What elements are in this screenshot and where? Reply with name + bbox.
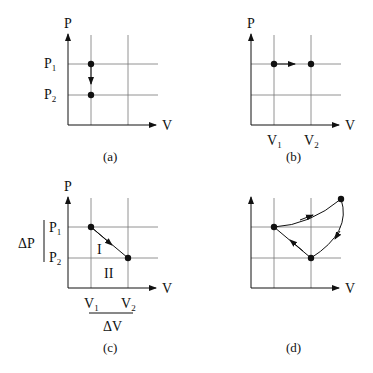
svg-text:P: P xyxy=(247,16,255,31)
svg-text:V2: V2 xyxy=(121,296,136,313)
p1-label: P1 xyxy=(44,56,56,73)
svg-text:P: P xyxy=(64,179,72,194)
state-point xyxy=(88,92,94,98)
panel-c: P V P1 P2 ΔP V1 V2 ΔV I II (c) xyxy=(18,179,172,355)
svg-text:V2: V2 xyxy=(304,133,319,150)
pv-diagrams: P V P1 P2 (a) P V V1 V2 (b) P V P1 P2 xyxy=(0,0,373,373)
caption-a: (a) xyxy=(103,149,117,164)
delta-p-label: ΔP xyxy=(18,236,35,251)
caption-d: (d) xyxy=(286,340,301,355)
panel-a: P V P1 P2 (a) xyxy=(44,16,172,164)
delta-v-label: ΔV xyxy=(103,319,122,334)
svg-text:V1: V1 xyxy=(84,296,99,313)
y-axis-label: P xyxy=(64,16,72,31)
svg-text:P1: P1 xyxy=(49,220,61,237)
x-axis-label: V xyxy=(162,118,172,133)
svg-text:V1: V1 xyxy=(267,133,282,150)
region-II: II xyxy=(104,266,114,281)
svg-text:V: V xyxy=(162,281,172,296)
svg-text:P2: P2 xyxy=(49,250,61,267)
state-point xyxy=(88,61,94,67)
p2-label: P2 xyxy=(44,87,56,104)
caption-c: (c) xyxy=(103,340,117,355)
svg-text:V: V xyxy=(345,281,355,296)
svg-text:V: V xyxy=(345,118,355,133)
region-I: I xyxy=(97,242,102,257)
panel-d: V (d) xyxy=(251,196,355,355)
panel-b: P V V1 V2 (b) xyxy=(247,16,355,164)
caption-b: (b) xyxy=(286,149,301,164)
